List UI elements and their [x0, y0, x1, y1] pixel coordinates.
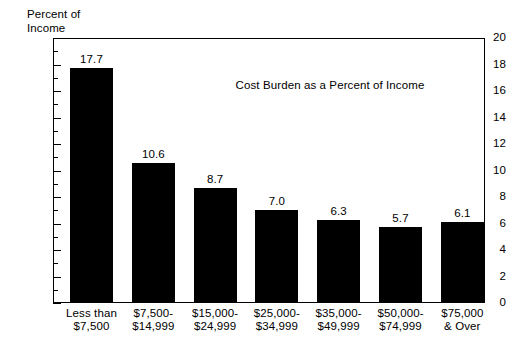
- y-axis-tick-major: [53, 144, 61, 145]
- bar-chart: Percent of Income 02468101214161820 17.7…: [0, 0, 506, 354]
- y-axis-tick-minor: [53, 104, 58, 105]
- y-axis-tick-major: [53, 197, 61, 198]
- y-axis-label: 10: [460, 165, 506, 177]
- y-axis-tick-major: [53, 303, 61, 304]
- y-axis-tick-minor: [53, 184, 58, 185]
- y-axis-tick-major: [53, 277, 61, 278]
- x-axis-category-label: $50,000- $74,999: [368, 307, 433, 333]
- bar: [70, 68, 113, 303]
- y-axis-tick-minor: [53, 237, 58, 238]
- y-axis-title: Percent of Income: [27, 8, 80, 35]
- bar-value-label: 17.7: [61, 54, 122, 66]
- y-axis-tick-minor: [53, 78, 58, 79]
- bar-value-label: 10.6: [123, 149, 184, 161]
- x-axis-category-label: Less than $7,500: [59, 307, 124, 333]
- bar-value-label: 6.1: [432, 208, 493, 220]
- y-axis-tick-minor: [53, 263, 58, 264]
- x-axis-category-label: $7,500- $14,999: [121, 307, 186, 333]
- y-axis-tick-major: [53, 171, 61, 172]
- y-axis-tick-major: [53, 118, 61, 119]
- y-axis-tick-major: [53, 224, 61, 225]
- y-axis-tick-major: [53, 250, 61, 251]
- bar-value-label: 7.0: [246, 196, 307, 208]
- y-axis-tick-minor: [53, 210, 58, 211]
- y-axis-label: 16: [460, 85, 506, 97]
- x-axis-category-label: $35,000- $49,999: [306, 307, 371, 333]
- y-axis-tick-minor: [53, 290, 58, 291]
- x-axis-category-label: $25,000- $34,999: [244, 307, 309, 333]
- bar: [379, 227, 422, 303]
- y-axis-tick-major: [53, 65, 61, 66]
- y-axis-tick-major: [53, 38, 61, 39]
- bar: [132, 163, 175, 303]
- bar-value-label: 8.7: [185, 174, 246, 186]
- y-axis-label: 14: [460, 112, 506, 124]
- bar-value-label: 6.3: [308, 206, 369, 218]
- y-axis-label: 8: [460, 191, 506, 203]
- x-axis-category-label: $15,000- $24,999: [183, 307, 248, 333]
- y-axis-tick-minor: [53, 51, 58, 52]
- y-axis-tick-minor: [53, 131, 58, 132]
- plot-annotation: Cost Burden as a Percent of Income: [214, 79, 446, 92]
- y-axis-tick-minor: [53, 157, 58, 158]
- bar: [441, 222, 484, 303]
- y-axis-tick-major: [53, 91, 61, 92]
- x-axis-category-label: $75,000 & Over: [430, 307, 495, 333]
- y-axis-label: 20: [460, 32, 506, 44]
- y-axis-label: 18: [460, 59, 506, 71]
- y-axis-label: 12: [460, 138, 506, 150]
- bar: [317, 220, 360, 303]
- bar-value-label: 5.7: [370, 213, 431, 225]
- bar: [255, 210, 298, 303]
- bar: [194, 188, 237, 303]
